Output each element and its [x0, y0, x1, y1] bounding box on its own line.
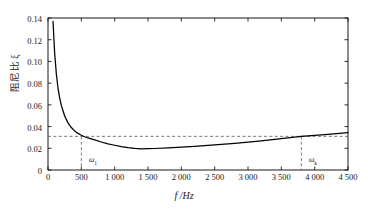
damping-ratio-chart: 阻尼比 ξ f /Hz 0.14 0.12 0.10 0.08 0.06 0.0…	[0, 0, 368, 214]
reference-lines	[48, 136, 348, 170]
axes-frame	[48, 18, 348, 170]
data-curve	[53, 21, 348, 149]
plot-area	[0, 0, 368, 214]
tick-marks	[48, 18, 348, 170]
